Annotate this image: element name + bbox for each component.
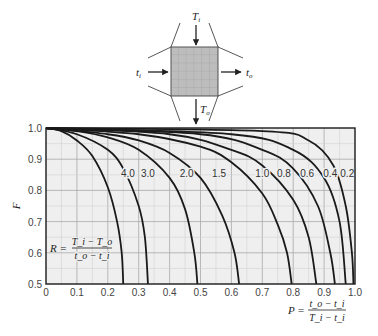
svg-text:t_o − t_i: t_o − t_i (309, 298, 344, 309)
curve-label: 0.6 (300, 168, 314, 179)
x-axis-label: P =t_o − t_iT_i − t_i (287, 298, 346, 323)
svg-text:R =: R = (49, 242, 67, 254)
label-cold-out: to (246, 66, 253, 80)
label-hot-out: To (200, 103, 210, 117)
y-tick-label: 0.6 (28, 248, 42, 259)
curve-label: 0.8 (277, 168, 291, 179)
y-tick-label: 0.9 (28, 154, 42, 165)
curve-label: 4.0 (121, 168, 135, 179)
curve-label: 0.2 (340, 168, 354, 179)
label-hot-in: Ti (192, 10, 200, 24)
curve-label: 2.0 (180, 168, 194, 179)
x-tick-label: 0.5 (194, 287, 208, 298)
x-tick-label: 0.1 (70, 287, 84, 298)
svg-text:t_o − t_i: t_o − t_i (74, 250, 109, 261)
exchanger-diagram: Ti To ti to (136, 10, 253, 124)
x-tick-label: 0.6 (224, 287, 238, 298)
x-tick-label: 0.7 (255, 287, 269, 298)
x-tick-label: 0 (43, 287, 49, 298)
y-tick-label: 0.8 (28, 185, 42, 196)
curve-label: 3.0 (141, 168, 155, 179)
curve-label: 1.0 (255, 168, 269, 179)
y-tick-label: 0.7 (28, 217, 42, 228)
svg-text:P =: P = (287, 304, 305, 316)
label-cold-in: ti (136, 66, 141, 80)
curve-label: 1.5 (212, 168, 226, 179)
x-tick-label: 0.9 (317, 287, 331, 298)
svg-text:T_i − T_o: T_i − T_o (72, 236, 113, 247)
y-axis-label: F (10, 202, 22, 210)
x-tick-label: 0.4 (163, 287, 177, 298)
x-tick-label: 0.8 (286, 287, 300, 298)
y-tick-label: 1.0 (28, 123, 42, 134)
x-tick-label: 1.0 (348, 287, 362, 298)
exchanger-core (171, 47, 218, 96)
plot-area: 4.03.02.01.51.00.80.60.40.200.10.20.30.4… (10, 123, 362, 323)
chart-canvas: Ti To ti to 4.03.02.01.51.00.80.60.40.20… (0, 0, 378, 336)
x-tick-label: 0.2 (101, 287, 115, 298)
y-tick-label: 0.5 (28, 279, 42, 290)
x-tick-label: 0.3 (132, 287, 146, 298)
svg-text:T_i − t_i: T_i − t_i (309, 312, 345, 323)
curve-label: 0.4 (323, 168, 337, 179)
